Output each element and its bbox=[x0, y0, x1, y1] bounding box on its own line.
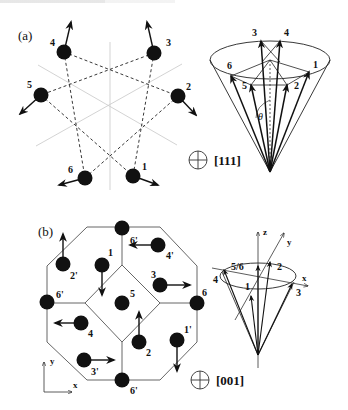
x-axis-label: x bbox=[73, 380, 78, 390]
atom-6: 6 bbox=[59, 164, 93, 186]
cone-vector-4: 4 bbox=[213, 270, 258, 355]
atom-1p: 1' bbox=[170, 324, 193, 371]
atom-dot bbox=[171, 89, 186, 104]
cone-vector-3: 3 bbox=[258, 284, 301, 355]
atom-label: 3' bbox=[91, 366, 99, 377]
atom-3: 3 bbox=[147, 22, 172, 61]
cone-z-label: z bbox=[263, 227, 267, 237]
vector-arrow bbox=[270, 85, 287, 172]
atom-dot bbox=[151, 238, 166, 253]
atom-2: 2 bbox=[171, 81, 197, 115]
vector-label: 4 bbox=[213, 274, 218, 285]
vector-label: 5 bbox=[242, 80, 247, 91]
atom-6p: 6' bbox=[115, 221, 139, 247]
atom-dot bbox=[170, 333, 185, 348]
atom-dot bbox=[132, 335, 147, 350]
direction-001: [001] bbox=[191, 371, 244, 389]
atom-label: 6' bbox=[130, 235, 138, 246]
panel-b-label: (b) bbox=[38, 224, 53, 239]
atoms-b: 1234561'2'3'4'6'6'6' bbox=[40, 221, 208, 397]
atom-label: 6 bbox=[202, 287, 207, 298]
atom-label: 6 bbox=[68, 164, 73, 175]
atom-label: 1 bbox=[108, 247, 113, 258]
xy-axes: y x bbox=[44, 356, 78, 392]
cone-y-label: y bbox=[287, 237, 292, 247]
atom-dot bbox=[115, 296, 130, 311]
atom-dot bbox=[78, 171, 93, 186]
cone-b: z y x 12345/6 bbox=[212, 227, 308, 368]
atom-label: 1' bbox=[184, 324, 192, 335]
atom-2p: 2' bbox=[56, 234, 79, 281]
vector-label: 4 bbox=[284, 27, 289, 38]
atom-2: 2 bbox=[132, 312, 152, 358]
cone-vector-5: 5 bbox=[242, 80, 270, 172]
symmetry-lines bbox=[36, 42, 182, 190]
atom-label: 5 bbox=[27, 79, 32, 90]
atom-label: 6' bbox=[56, 289, 64, 300]
y-axis-label: y bbox=[50, 356, 55, 366]
cone-a-vectors: 123456 bbox=[227, 27, 318, 172]
cone-x-label: x bbox=[302, 273, 307, 283]
atom-label: 4 bbox=[88, 328, 93, 339]
atom-3: 3 bbox=[151, 269, 190, 293]
atom-5: 5 bbox=[20, 79, 49, 114]
panel-b: (b) 1234561'2'3'4'6'6'6' y x [001] bbox=[38, 221, 308, 397]
vector-label: 6 bbox=[227, 60, 232, 71]
atom-dot bbox=[57, 45, 72, 60]
vector-label: 2 bbox=[277, 261, 282, 272]
cone-vector-2: 2 bbox=[258, 261, 282, 355]
direction-001-label: [001] bbox=[216, 373, 244, 388]
cone-b-vectors: 12345/6 bbox=[213, 261, 301, 355]
atom-dot bbox=[115, 221, 130, 236]
direction-111-label: [111] bbox=[214, 153, 241, 168]
atom-dot bbox=[147, 46, 162, 61]
vector-label: 1 bbox=[245, 281, 250, 292]
cone-a: θ 123456 bbox=[210, 27, 330, 172]
atom-label: 2 bbox=[146, 347, 151, 358]
atom-6: 6 bbox=[190, 287, 208, 311]
atom-dot bbox=[74, 316, 89, 331]
atom-1: 1 bbox=[95, 247, 114, 295]
direction-111: [111] bbox=[189, 151, 241, 169]
atom-4: 4 bbox=[55, 316, 93, 340]
atom-label: 6' bbox=[130, 385, 138, 396]
atom-6p: 6' bbox=[40, 289, 65, 310]
crossed-circle-icon bbox=[189, 151, 207, 169]
vector-label: 2 bbox=[294, 80, 299, 91]
atom-3p: 3' bbox=[77, 353, 115, 378]
atom-dot bbox=[34, 88, 49, 103]
crossed-circle-icon bbox=[191, 371, 209, 389]
atom-label: 2' bbox=[70, 270, 78, 281]
atom-dot bbox=[126, 169, 141, 184]
panel-a: (a) 123456 [111] bbox=[18, 22, 330, 190]
atom-dot bbox=[56, 257, 71, 272]
atom-dot bbox=[40, 295, 55, 310]
panel-a-label: (a) bbox=[18, 28, 32, 43]
atom-6p: 6' bbox=[115, 373, 139, 397]
atom-label: 1 bbox=[142, 161, 147, 172]
cone-vector-1: 1 bbox=[245, 281, 258, 355]
atom-label: 2 bbox=[186, 81, 191, 92]
atom-label: 4 bbox=[50, 37, 55, 48]
atom-dot bbox=[115, 373, 130, 388]
atom-dot bbox=[95, 258, 110, 273]
dashed-bonds bbox=[41, 52, 178, 178]
cone-vector-5-6: 5/6 bbox=[231, 261, 258, 355]
vector-label: 3 bbox=[296, 287, 301, 298]
atom-label: 5 bbox=[130, 288, 135, 299]
atom-4: 4 bbox=[50, 22, 72, 60]
atom-label: 3 bbox=[166, 37, 171, 48]
vector-label: 1 bbox=[313, 59, 318, 70]
atom-dot bbox=[77, 353, 92, 368]
atom-label: 4' bbox=[166, 250, 174, 261]
atom-5: 5 bbox=[115, 288, 136, 311]
vector-label: 5/6 bbox=[231, 261, 244, 272]
atom-label: 3 bbox=[151, 269, 156, 280]
vector-label: 3 bbox=[252, 27, 257, 38]
atom-1: 1 bbox=[126, 161, 159, 185]
figure: (a) 123456 [111] bbox=[0, 0, 348, 410]
